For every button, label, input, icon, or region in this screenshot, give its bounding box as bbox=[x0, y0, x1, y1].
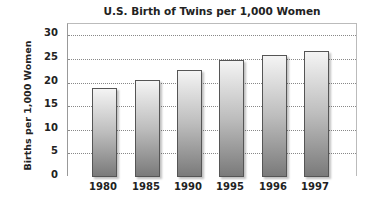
y-tick-label: 10 bbox=[28, 122, 58, 133]
y-tick-label: 30 bbox=[28, 27, 58, 38]
y-tick-label: 15 bbox=[28, 98, 58, 109]
x-tick-label: 1990 bbox=[168, 181, 208, 192]
bar-1990 bbox=[177, 70, 202, 177]
x-tick-label: 1997 bbox=[295, 181, 335, 192]
gridline bbox=[68, 35, 356, 36]
y-tick-label: 20 bbox=[28, 75, 58, 86]
x-tick-label: 1996 bbox=[253, 181, 293, 192]
bar-1985 bbox=[135, 80, 160, 177]
chart-title: U.S. Birth of Twins per 1,000 Women bbox=[67, 5, 357, 17]
bar-1980 bbox=[92, 88, 117, 177]
y-tick-label: 5 bbox=[28, 145, 58, 156]
bar-1996 bbox=[262, 55, 287, 177]
x-tick-label: 1980 bbox=[83, 181, 123, 192]
x-tick-label: 1995 bbox=[210, 181, 250, 192]
y-tick-label: 25 bbox=[28, 51, 58, 62]
y-tick-label: 0 bbox=[28, 169, 58, 180]
bar-1997 bbox=[304, 51, 329, 177]
x-tick-label: 1985 bbox=[126, 181, 166, 192]
plot-area bbox=[67, 23, 357, 176]
bar-1995 bbox=[219, 60, 244, 177]
